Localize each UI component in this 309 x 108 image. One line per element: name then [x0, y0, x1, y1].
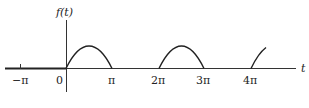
plot-canvas: f(t) t −π 0 π 2π 3π 4π: [0, 0, 309, 108]
sine-hump-2: [159, 46, 204, 69]
sine-hump-3-partial: [251, 48, 266, 69]
tick-label-neg-pi: −π: [12, 74, 28, 87]
tick-label-0: 0: [56, 74, 63, 87]
half-wave-rectified-sine-figure: f(t) t −π 0 π 2π 3π 4π: [0, 0, 309, 108]
sine-hump-1: [66, 46, 112, 69]
tick-label-4pi: 4π: [243, 74, 257, 87]
tick-label-pi: π: [108, 74, 115, 87]
tick-label-3pi: 3π: [196, 74, 210, 87]
y-axis-label: f(t): [55, 6, 73, 19]
tick-label-2pi: 2π: [151, 74, 165, 87]
x-axis-label: t: [301, 62, 306, 75]
